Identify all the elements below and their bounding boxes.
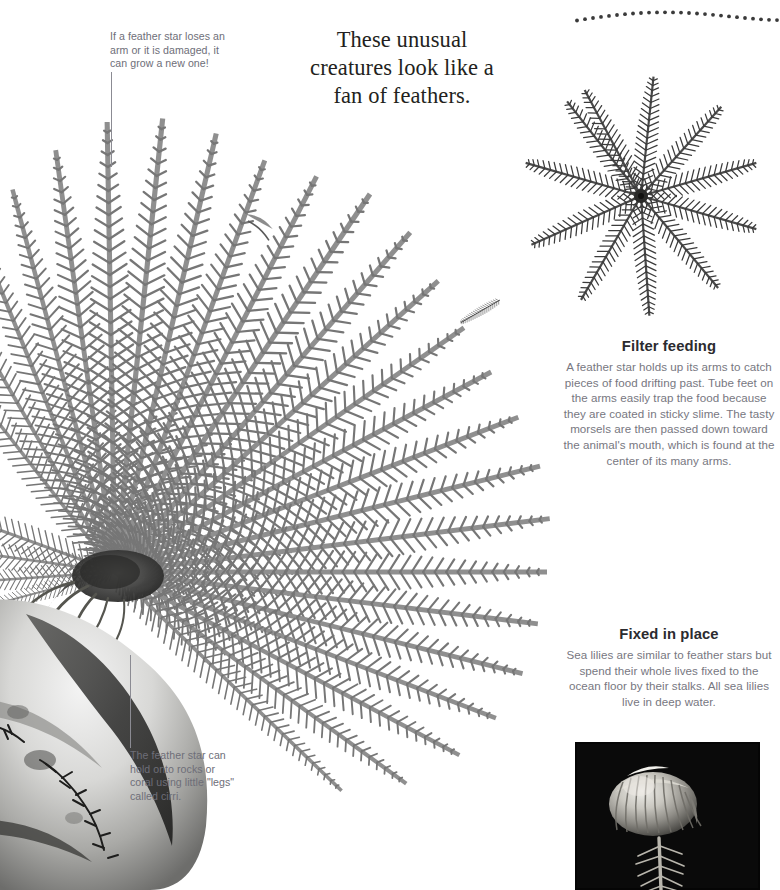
page-headline: These unusual creatures look like a fan … <box>296 26 508 110</box>
damaged-arm-detail <box>240 213 274 240</box>
cirri-group <box>24 582 124 660</box>
rock-substrate <box>0 600 207 890</box>
cirri-callout-leader-line <box>130 655 131 748</box>
branching-coral <box>0 725 118 858</box>
fixed-in-place-heading: Fixed in place <box>563 626 775 642</box>
arm-fragment <box>458 296 502 326</box>
regeneration-callout-leader-line <box>111 72 112 167</box>
feather-star-crown <box>44 550 164 614</box>
rosette-arms <box>523 76 760 317</box>
filter-feeding-section: Filter feeding A feather star holds up i… <box>563 338 775 468</box>
fixed-in-place-body: Sea lilies are similar to feather stars … <box>563 647 775 709</box>
filter-feeding-heading: Filter feeding <box>563 338 775 354</box>
sea-lily-photograph <box>575 742 760 890</box>
fixed-in-place-section: Fixed in place Sea lilies are similar to… <box>563 626 775 709</box>
feather-star-top-view-illustration <box>523 76 760 317</box>
cirri-callout: The feather star can hold onto rocks or … <box>130 749 240 803</box>
regeneration-callout: If a feather star loses an arm or it is … <box>110 30 238 71</box>
rosette-mouth <box>634 189 648 203</box>
dotted-arc-decoration <box>575 0 780 20</box>
filter-feeding-body: A feather star holds up its arms to catc… <box>563 359 775 468</box>
feather-star-arms <box>0 116 553 803</box>
